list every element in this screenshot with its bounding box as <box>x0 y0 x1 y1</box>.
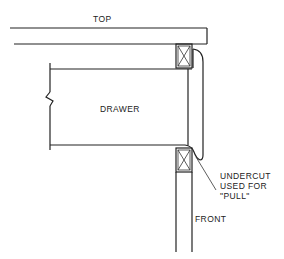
label-front: FRONT <box>195 214 226 224</box>
label-top: TOP <box>93 14 112 24</box>
label-undercut-2: USED FOR <box>220 181 267 191</box>
undercut-leader <box>196 157 216 190</box>
label-drawer: DRAWER <box>100 104 140 114</box>
label-undercut-3: "PULL" <box>220 191 250 201</box>
drawer-section-diagram <box>0 0 284 259</box>
front-frame <box>176 172 192 252</box>
upper-rail-block <box>176 44 192 68</box>
label-undercut-1: UNDERCUT <box>220 171 271 181</box>
top-board <box>10 28 207 44</box>
lower-rail-block <box>176 148 192 172</box>
